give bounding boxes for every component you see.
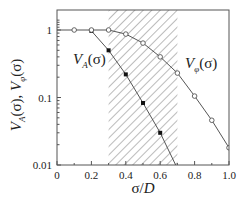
x-tick-label: 0.2 <box>85 169 99 181</box>
data-point <box>141 101 145 105</box>
y-tick-label: 0.01 <box>33 159 52 171</box>
x-tick-label: 0.8 <box>188 169 202 181</box>
data-point <box>158 131 162 135</box>
y-axis-title: VA(σ), Vφ(σ) <box>8 59 27 131</box>
svg-text:VA(σ), Vφ(σ): VA(σ), Vφ(σ) <box>8 59 27 131</box>
x-axis-title: σ/D <box>131 180 154 196</box>
x-tick-label: 0 <box>54 169 60 181</box>
series-label-vphi: Vφ(σ) <box>185 55 217 74</box>
svg-text:VA(σ): VA(σ) <box>73 51 106 70</box>
data-point <box>72 28 77 33</box>
data-point <box>89 28 94 33</box>
data-point <box>210 118 215 123</box>
data-point <box>158 55 163 60</box>
x-tick-label: 1.0 <box>222 169 236 181</box>
svg-text:Vφ(σ): Vφ(σ) <box>185 55 217 74</box>
data-point <box>141 41 146 46</box>
data-point <box>124 72 128 76</box>
y-tick-label: 1 <box>47 24 53 36</box>
data-point <box>175 71 180 76</box>
x-tick-label: 0.6 <box>153 169 167 181</box>
y-tick-label: 0.1 <box>38 92 52 104</box>
data-point <box>192 94 197 99</box>
data-point <box>107 48 111 52</box>
data-point <box>106 28 111 33</box>
shaded-region <box>109 10 178 165</box>
series-label-va: VA(σ) <box>73 51 106 70</box>
data-point <box>124 32 129 37</box>
chart-svg: 00.20.40.60.81.00.010.11 σ/D VA(σ), Vφ(σ… <box>0 0 246 200</box>
